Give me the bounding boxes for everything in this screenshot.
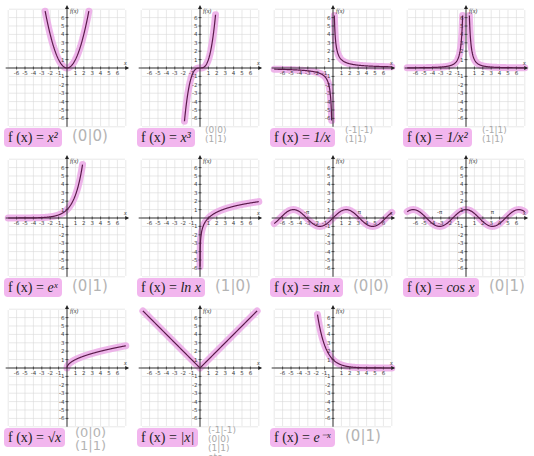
y-tick-label: -1	[192, 223, 197, 229]
y-tick-label: -5	[59, 107, 65, 113]
handwritten-point-note: (0|1)	[345, 428, 381, 444]
y-tick-label: 1	[460, 57, 464, 63]
y-axis-label: f(x)	[203, 158, 211, 165]
x-tick-label: 5	[107, 220, 111, 226]
graph: xf(x)-6-5-4-3-2-1123456654321-1-2-3-4-5-…	[266, 0, 398, 125]
formula-label: f (x) = √x	[4, 428, 65, 447]
x-tick-label: -3	[305, 370, 311, 376]
function-curve	[8, 165, 82, 218]
y-tick-label: 1	[194, 207, 198, 213]
x-tick-label: 1	[340, 220, 344, 226]
x-tick-label: 1	[473, 220, 477, 226]
y-tick-label: -6	[192, 415, 198, 421]
formula-prefix: f (x) =	[141, 280, 180, 295]
y-tick-label: 5	[194, 323, 198, 329]
function-panel-exp: xf(x)-6-5-4-3-2-1123456654321-1-2-3-4-5-…	[0, 150, 132, 300]
x-tick-label: 5	[373, 370, 377, 376]
graph: xf(x)-6-5-4-3-2-1123456654321-1-2-3-4-5-…	[0, 0, 132, 125]
x-tick-label: 6	[116, 70, 120, 76]
x-tick-label: -2	[313, 370, 318, 376]
y-tick-label: -4	[458, 249, 464, 255]
formula-body: 1/x²	[446, 130, 467, 145]
graph: xf(x)-6-5-4-3-2-1123456654321-1-2-3-4-5-…	[133, 300, 265, 425]
y-tick-label: -6	[59, 415, 65, 421]
x-tick-label: -5	[155, 220, 161, 226]
y-tick-label: 4	[327, 31, 331, 37]
graph: xf(x)-6-5-4-3-2-1123456654321-1-2-3-4-5-…	[133, 0, 265, 125]
x-tick-label: 6	[382, 70, 386, 76]
x-tick-label: -5	[155, 70, 161, 76]
graph: xf(x)-6-5-4-3-2-1123456654321-1-2-3-4-5-…	[0, 300, 132, 425]
function-panel-cos: xf(x)-6-5-4-3-2-1123456654321-1-2-3-4-5-…	[399, 150, 531, 300]
y-axis-label: f(x)	[203, 308, 211, 315]
axes: xf(x)-6-5-4-3-2-1123456654321-1-2-3-4-5-…	[272, 155, 395, 277]
x-tick-label: -3	[39, 370, 45, 376]
y-tick-label: -3	[458, 240, 464, 246]
axes: xf(x)-6-5-4-3-2-1123456654321-1-2-3-4-5-…	[6, 5, 129, 127]
y-tick-label: 6	[61, 315, 65, 321]
formula-label: f (x) = e⁻ˣ	[270, 428, 335, 447]
y-axis-label: f(x)	[336, 8, 344, 15]
y-tick-label: 5	[61, 323, 65, 329]
formula-label: f (x) = eˣ	[4, 278, 62, 297]
y-axis-label: f(x)	[469, 158, 477, 165]
handwritten-point-note: (-1|-1) (0|0) (1|1) etc.	[208, 426, 236, 456]
y-axis-label: f(x)	[70, 8, 78, 15]
x-axis-label: x	[123, 210, 127, 216]
y-tick-label: -6	[192, 265, 198, 271]
y-tick-label: -4	[59, 399, 65, 405]
formula-body: eˣ	[47, 280, 57, 295]
function-panel-sin: xf(x)-6-5-4-3-2-1123456654321-1-2-3-4-5-…	[266, 150, 398, 300]
function-panel-x2: xf(x)-6-5-4-3-2-1123456654321-1-2-3-4-5-…	[0, 0, 132, 150]
y-tick-label: 5	[61, 173, 65, 179]
x-tick-label: 2	[348, 70, 352, 76]
formula-body: cos x	[446, 280, 474, 295]
y-tick-label: -2	[59, 382, 64, 388]
x-tick-label: -3	[172, 220, 178, 226]
x-tick-label: -6	[14, 370, 20, 376]
x-tick-label: 4	[232, 220, 236, 226]
formula-body: ln x	[180, 280, 201, 295]
formula-body: e⁻ˣ	[313, 430, 330, 445]
x-tick-label: -5	[288, 370, 294, 376]
handwritten-point-note: (0|0) (1|1)	[75, 426, 106, 452]
y-tick-label: -6	[192, 115, 198, 121]
y-tick-label: -4	[192, 99, 198, 105]
x-axis-label: x	[389, 60, 393, 66]
y-tick-label: -4	[458, 99, 464, 105]
x-tick-label: -3	[172, 370, 178, 376]
y-tick-label: 6	[194, 315, 198, 321]
y-tick-label: -5	[325, 407, 331, 413]
y-tick-label: 1	[327, 207, 331, 213]
y-tick-label: 5	[194, 173, 198, 179]
y-tick-label: -2	[325, 382, 330, 388]
x-axis-label: x	[123, 60, 127, 66]
x-tick-label: 3	[356, 70, 360, 76]
y-tick-label: 2	[61, 348, 65, 354]
x-tick-label: 4	[99, 370, 103, 376]
x-tick-label: -4	[164, 70, 170, 76]
y-tick-label: 3	[194, 40, 198, 46]
x-tick-label: 6	[249, 370, 253, 376]
y-tick-label: -3	[59, 90, 65, 96]
function-panel-x3: xf(x)-6-5-4-3-2-1123456654321-1-2-3-4-5-…	[133, 0, 265, 150]
x-tick-label: -6	[14, 220, 20, 226]
y-tick-label: -5	[458, 107, 464, 113]
x-tick-label: 2	[82, 220, 86, 226]
graph: xf(x)-6-5-4-3-2-1123456654321-1-2-3-4-5-…	[133, 150, 265, 275]
x-tick-label: -5	[155, 370, 161, 376]
formula-label: f (x) = 1/x	[270, 128, 335, 147]
y-tick-label: -1	[458, 73, 463, 79]
handwritten-point-note: (1|0)	[215, 278, 251, 294]
x-tick-label: 3	[489, 70, 493, 76]
x-axis-label: x	[256, 60, 260, 66]
y-tick-label: -2	[59, 82, 64, 88]
x-tick-label: -6	[280, 220, 286, 226]
x-tick-label: 4	[498, 70, 502, 76]
y-tick-label: 1	[327, 357, 331, 363]
x-tick-label: 4	[365, 70, 369, 76]
x-tick-label: -6	[147, 370, 153, 376]
y-tick-label: -3	[192, 240, 198, 246]
y-tick-label: -6	[325, 115, 331, 121]
y-axis-label: f(x)	[203, 8, 211, 15]
